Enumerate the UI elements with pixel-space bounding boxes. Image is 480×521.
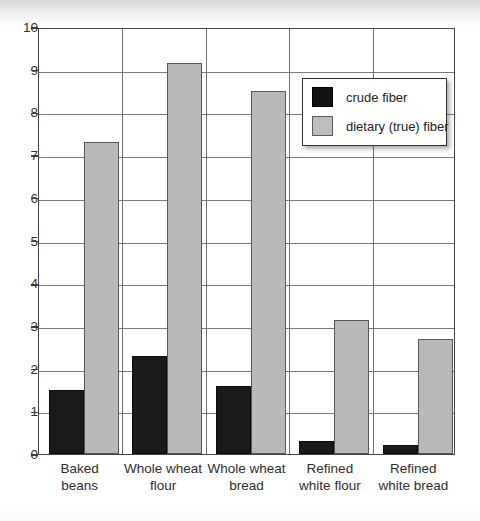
x-axis-label-line: white bread <box>362 478 465 495</box>
bar-crude-fiber <box>132 356 167 454</box>
gridline-horizontal <box>39 72 454 73</box>
y-axis-tick-label: 1 <box>12 405 38 419</box>
y-axis-tick-label: 4 <box>12 277 38 291</box>
x-axis-labels: BakedbeansWhole wheatflourWhole wheatbre… <box>38 461 455 507</box>
y-axis-tick-label: 5 <box>12 235 38 249</box>
y-axis-tick-label: 7 <box>12 149 38 163</box>
y-axis-tick-label: 10 <box>12 21 38 35</box>
y-axis-tick-label: 6 <box>12 192 38 206</box>
legend-swatch-dietary-fiber <box>312 116 333 136</box>
gridline-vertical <box>122 29 123 454</box>
legend-item-dietary-fiber: dietary (true) fiber <box>312 115 449 137</box>
x-axis-label-line: Refined <box>362 461 465 478</box>
y-axis-tick-label: 8 <box>12 106 38 120</box>
y-axis: 109876543210 <box>0 28 38 455</box>
y-axis-tick-label: 9 <box>12 64 38 78</box>
legend-label-crude-fiber: crude fiber <box>346 91 407 104</box>
bar-dietary-fiber <box>418 339 453 454</box>
y-axis-tick-label: 0 <box>12 448 38 462</box>
gridline-vertical <box>206 29 207 454</box>
bar-dietary-fiber <box>167 63 202 454</box>
x-axis-label: Refinedwhite bread <box>362 461 465 494</box>
bar-dietary-fiber <box>251 91 286 454</box>
bar-crude-fiber <box>299 441 334 454</box>
bar-crude-fiber <box>383 445 418 454</box>
bar-dietary-fiber <box>84 142 119 454</box>
bar-chart-figure: 109876543210 BakedbeansWhole wheatflourW… <box>0 0 480 521</box>
bar-crude-fiber <box>216 386 251 454</box>
gridline-vertical <box>289 29 290 454</box>
legend-swatch-crude-fiber <box>312 87 333 107</box>
chart-legend: crude fiber dietary (true) fiber <box>302 78 447 146</box>
y-axis-tick-label: 3 <box>12 320 38 334</box>
legend-label-dietary-fiber: dietary (true) fiber <box>346 120 449 133</box>
bar-dietary-fiber <box>334 320 369 455</box>
bar-crude-fiber <box>49 390 84 454</box>
legend-item-crude-fiber: crude fiber <box>312 86 407 108</box>
y-axis-tick-label: 2 <box>12 363 38 377</box>
